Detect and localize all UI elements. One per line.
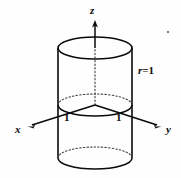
y-axis [95, 105, 162, 129]
bottom-back-arc-hidden [58, 147, 132, 158]
scan-artifact-speck [167, 31, 169, 33]
cylinder-diagram-svg [0, 0, 181, 178]
x-axis [28, 105, 96, 129]
bottom-front-arc [58, 158, 132, 169]
y-axis-label: y [166, 124, 171, 135]
tick-label-x-unit: 1 [64, 112, 70, 123]
radius-annotation: r=1 [138, 65, 154, 76]
cylinder-figure: z x y 1 1 r=1 [0, 0, 181, 178]
tick-label-y-unit: 1 [116, 112, 122, 123]
z-axis-label: z [90, 5, 94, 16]
x-axis-label: x [15, 124, 21, 135]
z-axis [92, 20, 98, 105]
cylinder-bottom-rim [58, 147, 132, 169]
radius-value: 1 [149, 64, 155, 76]
